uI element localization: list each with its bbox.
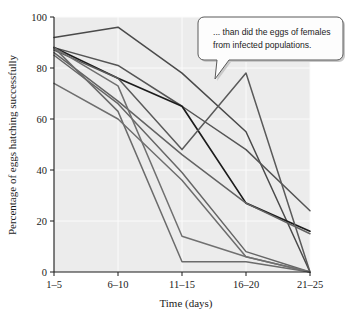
x-tick-label: 6–10 — [108, 279, 129, 290]
egg-hatching-line-chart: 020406080100 1–56–1011–1516–2021–25 Perc… — [0, 0, 347, 316]
y-tick-label: 20 — [37, 216, 48, 227]
y-tick-label: 100 — [31, 12, 47, 23]
x-tick-label: 21–25 — [297, 279, 323, 290]
y-tick-label: 0 — [42, 267, 47, 278]
callout-line-1: ... than did the eggs of females — [213, 27, 331, 37]
x-axis-title: Time (days) — [159, 297, 212, 310]
y-tick-label: 60 — [37, 114, 48, 125]
x-tick-label: 16–20 — [233, 279, 259, 290]
x-tick-label: 1–5 — [46, 279, 62, 290]
x-tick-label: 11–15 — [169, 279, 195, 290]
y-axis-title: Percentage of eggs hatching successfully — [6, 54, 18, 235]
y-tick-label: 40 — [37, 165, 48, 176]
callout-line-2: from infected populations. — [213, 40, 311, 50]
y-tick-label: 80 — [37, 63, 48, 74]
